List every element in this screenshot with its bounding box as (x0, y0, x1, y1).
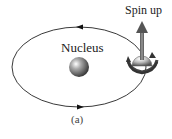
nucleus-label: Nucleus (61, 40, 104, 56)
figure-caption: (a) (71, 113, 83, 125)
spin-rotation-arrow-left-icon (126, 56, 131, 62)
spin-arrow-shaft (140, 30, 144, 60)
nucleus-sphere (69, 57, 89, 77)
orbit-arrow-bottom-icon (77, 105, 84, 110)
orbit-arrow-top-icon (76, 25, 83, 30)
orbit-diagram (0, 0, 172, 139)
spin-up-arrow-icon (136, 21, 148, 33)
spin-label: Spin up (125, 3, 162, 18)
spin-rotation-arrow-icon (149, 52, 156, 58)
